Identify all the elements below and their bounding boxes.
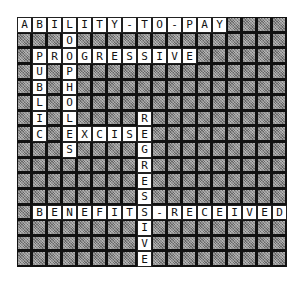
letter-cell[interactable]: R: [47, 48, 62, 64]
letter-cell[interactable]: R: [137, 111, 152, 127]
letter-cell[interactable]: A: [17, 17, 32, 33]
blocked-cell: [77, 173, 92, 189]
letter-cell[interactable]: B: [32, 80, 47, 96]
blocked-cell: [272, 80, 287, 96]
blocked-cell: [257, 158, 272, 174]
blocked-cell: [17, 189, 32, 205]
blocked-cell: [272, 111, 287, 127]
letter-cell[interactable]: E: [137, 126, 152, 142]
letter-cell[interactable]: S: [137, 48, 152, 64]
letter-cell[interactable]: G: [137, 142, 152, 158]
letter-cell[interactable]: V: [242, 205, 257, 221]
letter-cell[interactable]: E: [62, 126, 77, 142]
letter-cell[interactable]: T: [92, 17, 107, 33]
letter-cell[interactable]: C: [92, 126, 107, 142]
cell-letter: L: [66, 19, 73, 30]
letter-cell[interactable]: G: [77, 48, 92, 64]
blocked-cell: [107, 189, 122, 205]
letter-cell[interactable]: E: [212, 205, 227, 221]
letter-cell[interactable]: P: [182, 17, 197, 33]
blocked-cell: [167, 126, 182, 142]
letter-cell[interactable]: C: [32, 126, 47, 142]
letter-cell[interactable]: I: [227, 205, 242, 221]
letter-cell[interactable]: P: [62, 64, 77, 80]
letter-cell[interactable]: V: [167, 48, 182, 64]
blocked-cell: [257, 173, 272, 189]
letter-cell[interactable]: S: [62, 142, 77, 158]
letter-cell[interactable]: S: [137, 205, 152, 221]
blocked-cell: [167, 236, 182, 252]
cell-letter: P: [36, 51, 43, 62]
blocked-cell: [152, 33, 167, 49]
letter-cell[interactable]: -: [122, 17, 137, 33]
letter-cell[interactable]: I: [107, 205, 122, 221]
blocked-cell: [92, 64, 107, 80]
blocked-cell: [212, 80, 227, 96]
blocked-cell: [62, 220, 77, 236]
blocked-cell: [197, 80, 212, 96]
blocked-cell: [212, 173, 227, 189]
letter-cell[interactable]: L: [62, 17, 77, 33]
letter-cell[interactable]: S: [122, 126, 137, 142]
letter-cell[interactable]: U: [32, 64, 47, 80]
letter-cell[interactable]: I: [77, 17, 92, 33]
letter-cell[interactable]: E: [77, 205, 92, 221]
letter-cell[interactable]: N: [62, 205, 77, 221]
blocked-cell: [152, 189, 167, 205]
blocked-cell: [137, 95, 152, 111]
letter-cell[interactable]: F: [92, 205, 107, 221]
cell-letter: A: [21, 19, 28, 30]
blocked-cell: [17, 158, 32, 174]
letter-cell[interactable]: R: [137, 158, 152, 174]
letter-cell[interactable]: -: [167, 17, 182, 33]
letter-cell[interactable]: -: [152, 205, 167, 221]
letter-cell[interactable]: I: [32, 111, 47, 127]
letter-cell[interactable]: E: [47, 205, 62, 221]
blocked-cell: [167, 142, 182, 158]
letter-cell[interactable]: E: [257, 205, 272, 221]
letter-cell[interactable]: E: [107, 48, 122, 64]
letter-cell[interactable]: D: [272, 205, 287, 221]
letter-cell[interactable]: I: [107, 126, 122, 142]
letter-cell[interactable]: S: [122, 48, 137, 64]
letter-cell[interactable]: O: [62, 48, 77, 64]
letter-cell[interactable]: T: [137, 17, 152, 33]
letter-cell[interactable]: Y: [107, 17, 122, 33]
blocked-cell: [17, 173, 32, 189]
letter-cell[interactable]: B: [32, 205, 47, 221]
blocked-cell: [167, 251, 182, 267]
cell-letter: Y: [216, 19, 223, 30]
blocked-cell: [167, 64, 182, 80]
letter-cell[interactable]: V: [137, 236, 152, 252]
letter-cell[interactable]: X: [77, 126, 92, 142]
letter-cell[interactable]: B: [32, 17, 47, 33]
letter-cell[interactable]: R: [167, 205, 182, 221]
blocked-cell: [242, 236, 257, 252]
cell-letter: B: [36, 82, 43, 93]
letter-cell[interactable]: L: [32, 95, 47, 111]
letter-cell[interactable]: S: [137, 189, 152, 205]
letter-cell[interactable]: C: [197, 205, 212, 221]
letter-cell[interactable]: R: [92, 48, 107, 64]
letter-cell[interactable]: E: [182, 205, 197, 221]
cell-letter: E: [261, 207, 268, 218]
letter-cell[interactable]: E: [137, 251, 152, 267]
letter-cell[interactable]: O: [152, 17, 167, 33]
letter-cell[interactable]: T: [122, 205, 137, 221]
letter-cell[interactable]: Y: [212, 17, 227, 33]
letter-cell[interactable]: E: [137, 173, 152, 189]
letter-cell[interactable]: I: [47, 17, 62, 33]
letter-cell[interactable]: O: [62, 95, 77, 111]
letter-cell[interactable]: H: [62, 80, 77, 96]
letter-cell[interactable]: E: [182, 48, 197, 64]
letter-cell[interactable]: O: [62, 33, 77, 49]
blocked-cell: [92, 111, 107, 127]
blocked-cell: [227, 251, 242, 267]
letter-cell[interactable]: L: [62, 111, 77, 127]
letter-cell[interactable]: I: [152, 48, 167, 64]
letter-cell[interactable]: A: [197, 17, 212, 33]
letter-cell[interactable]: I: [137, 220, 152, 236]
blocked-cell: [272, 48, 287, 64]
cell-letter: U: [36, 66, 43, 77]
letter-cell[interactable]: P: [32, 48, 47, 64]
